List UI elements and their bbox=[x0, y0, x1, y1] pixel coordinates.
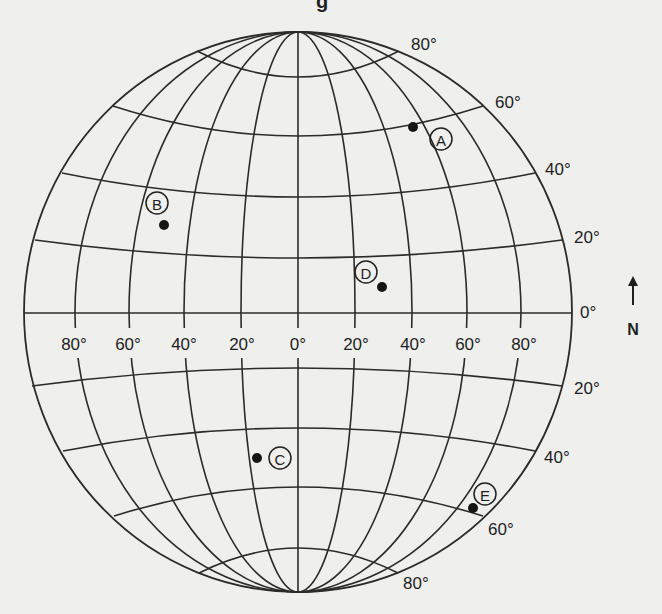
latitude-label: 60° bbox=[488, 520, 514, 539]
location-dot-icon bbox=[377, 282, 387, 292]
longitude-labels: 80°60°40°20°0°20°40°60°80° bbox=[61, 335, 537, 354]
longitude-label: 60° bbox=[455, 335, 481, 354]
meridian-line bbox=[75, 32, 298, 592]
globe-grid-figure: g 80°60°40°20°0°20°40°60°80° 80°60°40°20… bbox=[0, 0, 662, 614]
point-a: A bbox=[408, 122, 452, 150]
parallel-line bbox=[63, 428, 535, 451]
point-label: C bbox=[275, 451, 286, 468]
latitude-label: 40° bbox=[545, 160, 571, 179]
latitude-label: 40° bbox=[544, 448, 570, 467]
location-dot-icon bbox=[159, 220, 169, 230]
cropped-heading-fragment: g bbox=[316, 0, 328, 12]
longitude-label: 20° bbox=[343, 335, 369, 354]
longitude-label: 80° bbox=[61, 335, 87, 354]
north-arrowhead-icon bbox=[628, 276, 638, 286]
point-d: D bbox=[355, 261, 387, 292]
north-label: N bbox=[627, 321, 639, 338]
meridian-line bbox=[298, 32, 355, 592]
location-dot-icon bbox=[252, 453, 262, 463]
longitude-label: 20° bbox=[229, 335, 255, 354]
latitude-label: 20° bbox=[574, 228, 600, 247]
meridian-line bbox=[298, 32, 467, 592]
longitude-label: 80° bbox=[511, 335, 537, 354]
latitude-labels: 80°60°40°20°0°20°40°60°80° bbox=[403, 35, 600, 593]
globe-diagram: g 80°60°40°20°0°20°40°60°80° 80°60°40°20… bbox=[0, 0, 662, 614]
parallel-line bbox=[32, 368, 562, 386]
point-label: A bbox=[436, 132, 446, 149]
latitude-label: 60° bbox=[495, 93, 521, 112]
point-b: B bbox=[146, 192, 169, 230]
point-label: B bbox=[152, 196, 162, 213]
latitude-label: 80° bbox=[411, 35, 437, 54]
meridian-line bbox=[129, 32, 298, 592]
latitude-label: 20° bbox=[574, 379, 600, 398]
latitude-label: 0° bbox=[580, 303, 596, 322]
meridian-line bbox=[298, 32, 521, 592]
point-label: E bbox=[480, 487, 490, 504]
latitude-label: 80° bbox=[403, 574, 429, 593]
longitude-label: 0° bbox=[290, 335, 306, 354]
location-dot-icon bbox=[468, 503, 478, 513]
location-dot-icon bbox=[408, 122, 418, 132]
north-arrow-compass: N bbox=[627, 276, 639, 338]
longitude-label: 40° bbox=[400, 335, 426, 354]
longitude-label: 60° bbox=[115, 335, 141, 354]
meridian-line bbox=[241, 32, 298, 592]
longitude-label: 40° bbox=[171, 335, 197, 354]
point-label: D bbox=[361, 265, 372, 282]
point-c: C bbox=[252, 447, 291, 469]
